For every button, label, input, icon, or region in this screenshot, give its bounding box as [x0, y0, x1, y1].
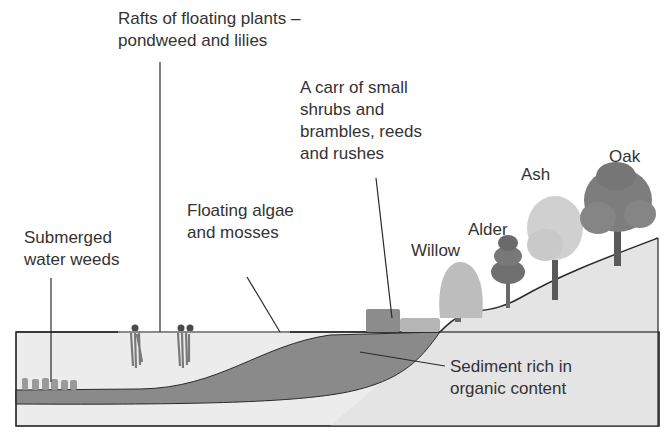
label-carr-line1: A carr of small [300, 77, 422, 99]
label-submerged: Submerged water weeds [24, 227, 119, 271]
label-rafts-line2: pondweed and lilies [118, 30, 300, 52]
label-carr-line3: brambles, reeds [300, 121, 422, 143]
label-alder: Alder [468, 219, 508, 241]
label-willow: Willow [411, 240, 460, 262]
label-sediment: Sediment rich in organic content [450, 356, 572, 400]
label-rafts: Rafts of floating plants – pondweed and … [118, 8, 300, 52]
label-carr: A carr of small shrubs and brambles, ree… [300, 77, 422, 165]
label-sediment-line2: organic content [450, 378, 572, 400]
label-sediment-line1: Sediment rich in [450, 356, 572, 378]
label-oak: Oak [609, 146, 640, 168]
reeds-icon [366, 309, 440, 332]
alder-tree-icon [491, 235, 525, 308]
label-carr-line4: and rushes [300, 143, 422, 165]
label-algae-line1: Floating algae [187, 200, 294, 222]
label-carr-line2: shrubs and [300, 99, 422, 121]
label-algae-line2: and mosses [187, 222, 294, 244]
label-submerged-line2: water weeds [24, 249, 119, 271]
label-rafts-line1: Rafts of floating plants – [118, 8, 300, 30]
label-ash: Ash [521, 164, 550, 186]
willow-tree-icon [439, 262, 483, 322]
label-algae: Floating algae and mosses [187, 200, 294, 244]
label-submerged-line1: Submerged [24, 227, 119, 249]
